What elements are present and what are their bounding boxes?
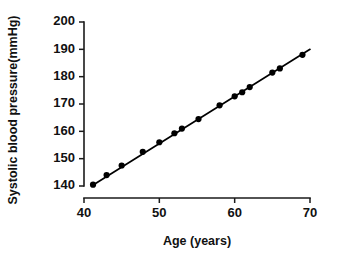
y-axis (79, 22, 84, 186)
y-tick-label: 140 (53, 177, 75, 192)
data-point (299, 52, 305, 58)
x-tick-label: 40 (77, 205, 91, 220)
data-point (179, 126, 185, 132)
data-point (247, 84, 253, 90)
data-point (140, 149, 146, 155)
data-point (156, 139, 162, 145)
data-point (239, 89, 245, 95)
data-points (90, 52, 306, 188)
data-point (217, 102, 223, 108)
data-point (104, 172, 110, 178)
data-point (269, 69, 275, 75)
y-axis-title: Systolic blood pressure(mmHg) (6, 16, 20, 205)
x-tick-label: 60 (227, 205, 241, 220)
scatter-plot: 140150160170180190200 40506070 Age (year… (0, 0, 340, 255)
data-point (195, 116, 201, 122)
x-tick-label: 50 (152, 205, 166, 220)
y-tick-label: 200 (53, 13, 75, 28)
data-point (90, 182, 96, 188)
y-tick-label: 150 (53, 150, 75, 165)
chart-container: 140150160170180190200 40506070 Age (year… (0, 0, 340, 255)
y-tick-label: 160 (53, 123, 75, 138)
y-tick-labels: 140150160170180190200 (53, 13, 75, 192)
y-tick-label: 180 (53, 68, 75, 83)
data-point (119, 162, 125, 168)
data-point (277, 65, 283, 71)
x-axis-title: Age (years) (163, 234, 231, 248)
x-axis (84, 198, 310, 203)
x-tick-label: 70 (303, 205, 317, 220)
data-point (171, 130, 177, 136)
x-tick-labels: 40506070 (77, 205, 317, 220)
y-tick-label: 170 (53, 95, 75, 110)
y-tick-label: 190 (53, 41, 75, 56)
data-point (232, 93, 238, 99)
